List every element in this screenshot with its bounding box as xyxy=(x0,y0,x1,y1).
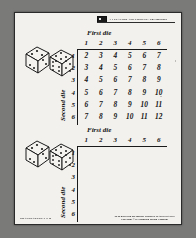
table-row: 7 8 9 10 11 12 xyxy=(79,111,166,123)
cell[interactable] xyxy=(94,171,109,183)
cell: 6 xyxy=(137,50,152,62)
row-header: 1 xyxy=(65,147,75,159)
cell: 4 xyxy=(79,74,94,86)
cell: 12 xyxy=(152,111,167,123)
row-header: 4 xyxy=(65,184,75,196)
row-header: 3 xyxy=(65,171,75,183)
row-header: 6 xyxy=(65,111,75,123)
cell[interactable] xyxy=(79,159,94,171)
cell: 10 xyxy=(152,87,167,99)
cell: 9 xyxy=(123,99,138,111)
cell: 8 xyxy=(152,62,167,74)
cell: 6 xyxy=(108,74,123,86)
cell: 10 xyxy=(137,99,152,111)
cell[interactable] xyxy=(123,196,138,208)
cell[interactable] xyxy=(79,208,94,220)
cell[interactable] xyxy=(123,159,138,171)
table-row: 4 5 6 7 8 9 xyxy=(79,74,166,86)
col-header: 5 xyxy=(137,136,152,144)
cell[interactable] xyxy=(152,159,167,171)
cell[interactable] xyxy=(108,171,123,183)
table-row: 5 6 7 8 9 10 xyxy=(79,87,166,99)
cell[interactable] xyxy=(94,184,109,196)
cell[interactable] xyxy=(94,147,109,159)
table-left-rule xyxy=(77,146,78,222)
cell: 2 xyxy=(79,50,94,62)
cell[interactable] xyxy=(79,147,94,159)
table-row[interactable] xyxy=(79,196,166,208)
cell: 7 xyxy=(108,87,123,99)
cell[interactable] xyxy=(137,159,152,171)
cell[interactable] xyxy=(137,171,152,183)
cell[interactable] xyxy=(137,184,152,196)
cell: 9 xyxy=(108,111,123,123)
row-header: 4 xyxy=(65,87,75,99)
cell[interactable] xyxy=(152,171,167,183)
table-row[interactable] xyxy=(79,159,166,171)
col-header: 3 xyxy=(108,136,123,144)
cell[interactable] xyxy=(108,159,123,171)
table-cells[interactable] xyxy=(79,147,166,220)
cell[interactable] xyxy=(108,184,123,196)
cell: 5 xyxy=(108,62,123,74)
cell: 5 xyxy=(94,74,109,86)
column-headers: 1 2 3 4 5 6 xyxy=(79,136,166,144)
cell: 11 xyxy=(137,111,152,123)
cell[interactable] xyxy=(152,184,167,196)
table-row[interactable] xyxy=(79,184,166,196)
transparency-number: TRANSPARENCY 5-B xyxy=(20,216,51,220)
worksheet-page: A-1 TEACHER AND STUDENT / The Publisher xyxy=(14,12,182,225)
table-cells: 2 3 4 5 6 7 3 4 5 6 7 8 4 5 xyxy=(79,50,166,123)
copyright-footer: To be used with the Teacher Edition of M… xyxy=(114,215,175,221)
table-title-first-die: First die xyxy=(87,30,111,37)
cell[interactable] xyxy=(94,159,109,171)
col-header: 1 xyxy=(79,136,94,144)
cell: 11 xyxy=(152,99,167,111)
publisher-header-text: A-1 TEACHER AND STUDENT / The Publisher xyxy=(109,18,167,21)
cell[interactable] xyxy=(79,171,94,183)
cell[interactable] xyxy=(123,184,138,196)
col-header: 4 xyxy=(123,136,138,144)
header-rule xyxy=(97,22,175,23)
row-header: 2 xyxy=(65,62,75,74)
cell[interactable] xyxy=(94,196,109,208)
cell[interactable] xyxy=(123,171,138,183)
table-row: 6 7 8 9 10 11 xyxy=(79,99,166,111)
cell[interactable] xyxy=(108,196,123,208)
cell[interactable] xyxy=(94,208,109,220)
col-header: 6 xyxy=(152,39,167,47)
cell[interactable] xyxy=(79,196,94,208)
col-header: 5 xyxy=(137,39,152,47)
scan-speckle xyxy=(175,60,176,62)
row-header: 3 xyxy=(65,74,75,86)
table-row[interactable] xyxy=(79,147,166,159)
cell: 9 xyxy=(152,74,167,86)
cell: 7 xyxy=(94,99,109,111)
cell: 9 xyxy=(137,87,152,99)
row-header: 2 xyxy=(65,159,75,171)
row-header: 1 xyxy=(65,50,75,62)
cell[interactable] xyxy=(152,147,167,159)
cell: 7 xyxy=(137,62,152,74)
cell[interactable] xyxy=(137,147,152,159)
cell[interactable] xyxy=(152,196,167,208)
cell: 4 xyxy=(108,50,123,62)
col-header: 3 xyxy=(108,39,123,47)
table-title-first-die: First die xyxy=(87,127,111,134)
row-header: 5 xyxy=(65,196,75,208)
cell[interactable] xyxy=(137,196,152,208)
table-row: 2 3 4 5 6 7 xyxy=(79,50,166,62)
cell[interactable] xyxy=(108,147,123,159)
cell[interactable] xyxy=(79,184,94,196)
col-header: 6 xyxy=(152,136,167,144)
row-header: 5 xyxy=(65,99,75,111)
cell: 7 xyxy=(123,74,138,86)
col-header: 4 xyxy=(123,39,138,47)
cell[interactable] xyxy=(123,147,138,159)
cell: 3 xyxy=(94,50,109,62)
table-row[interactable] xyxy=(79,171,166,183)
col-header: 1 xyxy=(79,39,94,47)
table-left-rule xyxy=(77,49,78,125)
copyright-line-2: Copyright © by Houghton Mifflin Company xyxy=(114,218,175,221)
cell: 6 xyxy=(79,99,94,111)
